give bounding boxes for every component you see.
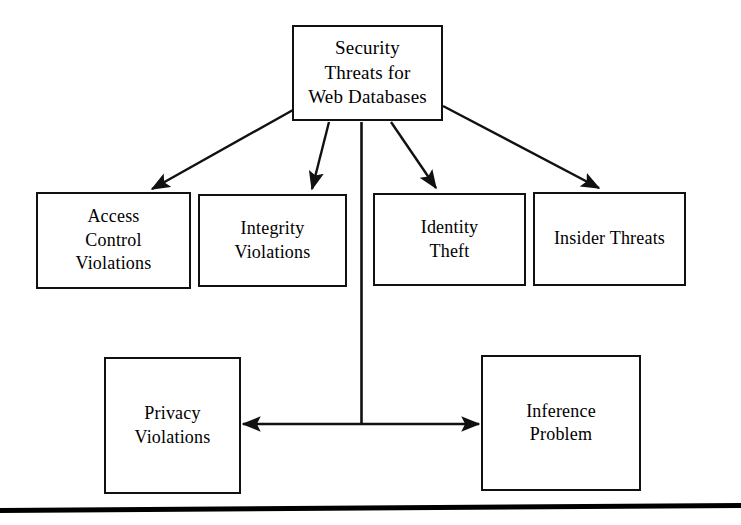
node-security-threats-root[interactable]: Security Threats for Web Databases bbox=[292, 25, 443, 121]
connector-root-to-identity bbox=[391, 122, 436, 188]
connector-root-to-integrity bbox=[312, 122, 329, 189]
connector-root-to-insider bbox=[443, 106, 599, 188]
node-insider-threats[interactable]: Insider Threats bbox=[533, 192, 686, 286]
node-label: Security Threats for Web Databases bbox=[302, 36, 433, 110]
bottom-divider-line bbox=[0, 506, 741, 511]
node-privacy-violations[interactable]: Privacy Violations bbox=[104, 357, 241, 494]
node-label: Inference Problem bbox=[520, 400, 602, 447]
node-label: Insider Threats bbox=[548, 227, 671, 250]
diagram-canvas: Security Threats for Web Databases Acces… bbox=[0, 0, 741, 525]
node-label: Privacy Violations bbox=[129, 402, 217, 449]
node-integrity-violations[interactable]: Integrity Violations bbox=[198, 194, 347, 287]
node-label: Identity Theft bbox=[415, 216, 485, 263]
node-access-control-violations[interactable]: Access Control Violations bbox=[36, 192, 191, 289]
node-identity-theft[interactable]: Identity Theft bbox=[373, 193, 526, 286]
node-label: Access Control Violations bbox=[70, 205, 158, 275]
node-label: Integrity Violations bbox=[229, 217, 317, 264]
node-inference-problem[interactable]: Inference Problem bbox=[481, 355, 641, 491]
bottom-divider bbox=[0, 498, 741, 518]
connector-root-to-access bbox=[152, 110, 293, 189]
